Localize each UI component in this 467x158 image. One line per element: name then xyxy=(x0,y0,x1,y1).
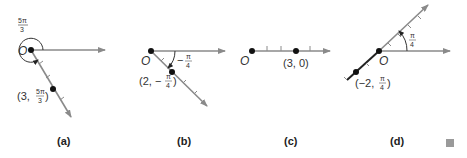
origin-label: O xyxy=(141,54,150,68)
origin-point xyxy=(249,48,255,54)
plotted-point xyxy=(293,48,299,54)
plotted-point xyxy=(353,69,359,75)
origin-label: O xyxy=(240,54,249,68)
origin-label: O xyxy=(379,54,388,68)
end-marker xyxy=(446,139,454,147)
svg-text:3: 3 xyxy=(38,97,42,104)
angle-ray xyxy=(379,5,428,51)
plotted-point xyxy=(50,86,56,92)
point-label: (3, 0) xyxy=(283,57,309,69)
svg-text:π: π xyxy=(166,73,171,80)
panel-d: O π 4 (−2, π 4 ) (d) xyxy=(344,5,450,147)
svg-text:4: 4 xyxy=(380,84,384,91)
svg-text:): ) xyxy=(45,90,49,102)
caption-b: (b) xyxy=(177,135,191,147)
svg-text:5π: 5π xyxy=(36,88,45,95)
point-label: (2, − xyxy=(139,75,161,87)
origin-point xyxy=(28,47,34,53)
panel-b: O − π 4 (2, − π 4 ) (b) xyxy=(139,48,225,147)
origin-label: O xyxy=(18,44,27,58)
polar-coordinates-figure: O 5π 3 (3, 5π 3 ) (a) O − π 4 (2, − π 4 … xyxy=(0,0,467,158)
angle-denominator: 3 xyxy=(20,26,24,33)
svg-text:−: − xyxy=(177,54,183,66)
angle-arc xyxy=(399,31,407,51)
panel-a: O 5π 3 (3, 5π 3 ) (a) xyxy=(17,17,105,147)
caption-a: (a) xyxy=(57,135,71,147)
point-label: (3, xyxy=(17,90,30,102)
svg-text:π: π xyxy=(186,53,191,60)
extended-ray xyxy=(347,51,379,80)
caption-d: (d) xyxy=(390,135,404,147)
svg-text:π: π xyxy=(410,32,415,39)
terminal-ray xyxy=(31,50,71,117)
svg-text:): ) xyxy=(173,75,177,87)
svg-text:): ) xyxy=(387,77,391,89)
angle-numerator: 5π xyxy=(18,17,27,24)
svg-text:4: 4 xyxy=(166,82,170,89)
svg-text:4: 4 xyxy=(410,41,414,48)
svg-text:π: π xyxy=(380,75,385,82)
panel-c: O (3, 0) (c) xyxy=(240,46,330,147)
point-label: (−2, xyxy=(355,77,374,89)
caption-c: (c) xyxy=(284,135,298,147)
angle-arc xyxy=(168,51,175,68)
svg-text:4: 4 xyxy=(186,62,190,69)
